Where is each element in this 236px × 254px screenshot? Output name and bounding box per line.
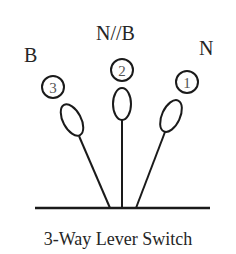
lever-knob-3: [56, 101, 88, 139]
lever-knob-2: [113, 88, 131, 120]
lever-stem-3: [79, 136, 110, 208]
position-3-marker: 3: [42, 76, 64, 98]
caption: 3-Way Lever Switch: [44, 229, 193, 249]
label-n: N: [199, 37, 213, 59]
number-2: 2: [118, 63, 126, 79]
lever-switch-diagram: B N//B N 3 2 1 3-Way Lever Switch: [0, 0, 236, 254]
lever-knob-1: [156, 97, 187, 135]
lever-stem-1: [136, 132, 165, 208]
number-3: 3: [49, 80, 57, 96]
position-1-marker: 1: [176, 71, 198, 93]
label-n-b: N//B: [96, 22, 135, 44]
label-b: B: [24, 44, 37, 66]
position-2-marker: 2: [111, 59, 133, 81]
number-1: 1: [183, 75, 191, 91]
